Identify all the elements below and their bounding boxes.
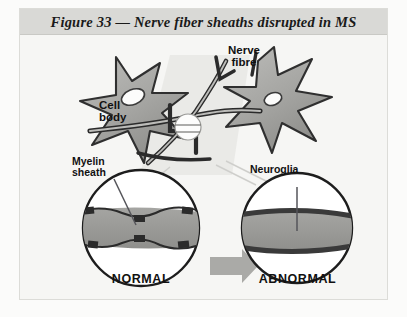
figure-root: Figure 33 — Nerve fiber sheaths disrupte… [0,0,407,317]
label-nerve-fibre: Nerve fibre [228,44,260,68]
label-myelin-sheath: Myelin sheath [72,156,106,178]
label-neuroglia: Neuroglia [250,164,298,175]
label-normal: NORMAL [86,273,196,286]
figure-canvas: Cell body Nerve fibre Myelin sheath Neur… [20,35,387,299]
normal-myelin [78,206,206,248]
normal-panel [78,170,206,286]
label-cell-body: Cell body [99,99,126,123]
abnormal-myelin [238,210,358,251]
figure-title: Figure 33 — Nerve fiber sheaths disrupte… [20,9,387,35]
label-abnormal: ABNORMAL [235,273,360,286]
fibre-highlight [175,114,201,140]
